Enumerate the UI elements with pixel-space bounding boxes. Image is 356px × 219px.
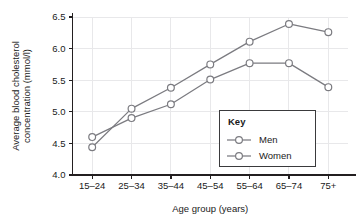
data-point-men [286,60,293,67]
data-point-women [128,105,135,112]
data-point-women [89,144,96,151]
data-point-women [246,38,253,45]
y-axis-tick-labels: 4.04.55.05.56.06.5 [52,11,65,180]
x-tick-label: 75+ [320,180,337,191]
x-tick-label: 35–44 [158,180,184,191]
y-axis-title: Average blood cholesterolconcentration (… [10,41,32,151]
legend-title: Key [228,116,246,127]
x-tick-label: 65–74 [276,180,302,191]
data-point-men [167,101,174,108]
data-point-women [286,21,293,28]
cholesterol-line-chart: 4.04.55.05.56.06.5 15–2425–3435–4445–545… [0,0,356,219]
legend-marker-women [236,153,243,160]
x-tick-label: 15–24 [79,180,105,191]
legend-marker-men [236,137,243,144]
data-point-women [207,61,214,68]
x-tick-label: 45–54 [197,180,223,191]
y-tick-label: 6.0 [52,43,65,54]
x-axis-tick-labels: 15–2425–3435–4445–5455–6465–7475+ [79,180,337,191]
y-axis-title-line: Average blood cholesterol [10,41,21,151]
legend-label-women: Women [259,150,292,161]
y-tick-label: 6.5 [52,11,65,22]
legend: KeyMenWomen [219,110,315,166]
data-point-men [207,76,214,83]
data-point-men [246,60,253,67]
legend-label-men: Men [259,134,277,145]
y-tick-label: 4.0 [52,169,65,180]
x-tick-label: 55–64 [236,180,262,191]
x-tick-label: 25–34 [118,180,144,191]
y-tick-label: 4.5 [52,138,65,149]
y-axis-title-line: concentration (mmol/l) [21,49,32,143]
y-tick-label: 5.0 [52,106,65,117]
data-point-men [128,115,135,122]
y-tick-label: 5.5 [52,75,65,86]
data-point-men [89,134,96,141]
data-point-women [325,29,332,36]
chart-canvas: 4.04.55.05.56.06.5 15–2425–3435–4445–545… [0,0,356,219]
data-point-men [325,84,332,91]
data-point-women [167,84,174,91]
x-axis-title: Age group (years) [172,203,248,214]
